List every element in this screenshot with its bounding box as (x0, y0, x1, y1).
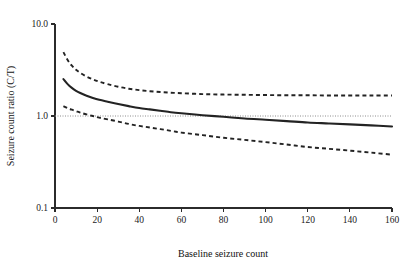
seizure-count-ratio-chart: 0.11.010.0 020406080100120140160 Baselin… (0, 0, 411, 267)
x-tick-label: 80 (219, 215, 229, 225)
y-tick-label: 10.0 (31, 19, 48, 29)
x-tick-label: 160 (385, 215, 400, 225)
y-tick-label: 0.1 (36, 203, 48, 213)
x-tick-label: 120 (301, 215, 316, 225)
x-tick-label: 100 (259, 215, 274, 225)
x-axis-title: Baseline seizure count (178, 248, 268, 259)
x-tick-label: 140 (343, 215, 358, 225)
y-axis-ticks: 0.11.010.0 (31, 19, 55, 213)
upper-confidence-curve (63, 52, 392, 95)
x-tick-label: 40 (135, 215, 145, 225)
x-tick-label: 60 (177, 215, 187, 225)
y-tick-label: 1.0 (36, 111, 48, 121)
lower-confidence-curve (63, 106, 392, 155)
y-axis-title: Seizure count ratio (C/T) (5, 66, 17, 166)
seizure-count-ratio-curve (63, 79, 392, 126)
x-axis-ticks: 020406080100120140160 (53, 208, 400, 225)
x-tick-label: 0 (53, 215, 58, 225)
x-tick-label: 20 (92, 215, 102, 225)
figure-container: 0.11.010.0 020406080100120140160 Baselin… (0, 0, 411, 267)
